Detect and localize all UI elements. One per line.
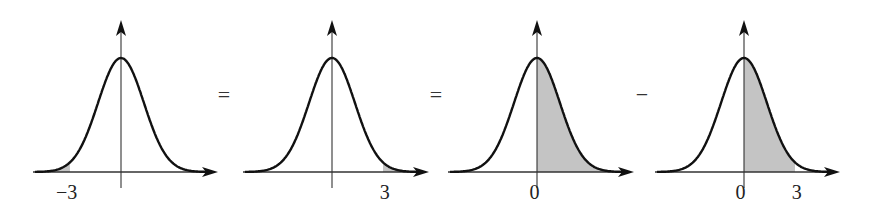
tick-label: −3 [56, 181, 77, 203]
normal-distribution-diagram: −33003==− [0, 0, 874, 222]
panel-3: 0 [448, 20, 634, 203]
panel-1: −3 [33, 20, 218, 203]
tick-label: 3 [792, 181, 802, 203]
panel-2: 3 [243, 20, 429, 203]
operator-equals-icon: = [430, 82, 442, 107]
tick-label: 0 [736, 181, 746, 203]
normal-curve [657, 58, 830, 172]
tick-label: 3 [380, 181, 390, 203]
operator-minus-icon: − [636, 82, 648, 107]
operator-equals-icon: = [218, 82, 230, 107]
panel-4: 03 [655, 20, 840, 203]
tick-label: 0 [529, 181, 539, 203]
